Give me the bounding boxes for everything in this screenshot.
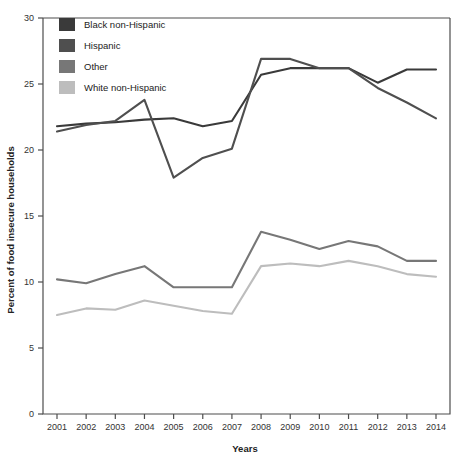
x-tick-label-2014: 2014 — [426, 422, 446, 432]
x-tick-label-2003: 2003 — [105, 422, 125, 432]
line-chart: 051015202530 200120022003200420052006200… — [0, 0, 457, 459]
x-tick-label-2006: 2006 — [193, 422, 213, 432]
legend-label-other: Other — [84, 61, 108, 72]
y-tick-label-5: 5 — [29, 343, 34, 353]
y-tick-label-25: 25 — [24, 79, 34, 89]
x-tick-label-2004: 2004 — [134, 422, 154, 432]
x-tick-label-2005: 2005 — [164, 422, 184, 432]
y-tick-label-20: 20 — [24, 145, 34, 155]
x-tick-label-2010: 2010 — [309, 422, 329, 432]
y-tick-label-0: 0 — [29, 409, 34, 419]
legend-swatch-black-non-hispanic — [59, 18, 75, 31]
x-tick-label-2002: 2002 — [76, 422, 96, 432]
chart-container: 051015202530 200120022003200420052006200… — [0, 0, 457, 459]
x-tick-label-2012: 2012 — [368, 422, 388, 432]
legend-label-hispanic: Hispanic — [84, 40, 121, 51]
legend-swatch-hispanic — [59, 39, 75, 52]
x-axis-title: Years — [232, 443, 257, 454]
x-tick-label-2001: 2001 — [47, 422, 67, 432]
x-tick-label-2008: 2008 — [251, 422, 271, 432]
y-axis-title: Percent of food insecure households — [5, 146, 16, 313]
y-tick-label-30: 30 — [24, 13, 34, 23]
legend-label-black-non-hispanic: Black non-Hispanic — [84, 19, 166, 30]
legend-swatch-other — [59, 60, 75, 73]
legend-label-white-non-hispanic: White non-Hispanic — [84, 82, 167, 93]
x-tick-label-2009: 2009 — [280, 422, 300, 432]
legend-swatch-white-non-hispanic — [59, 81, 75, 94]
y-tick-label-15: 15 — [24, 211, 34, 221]
y-tick-label-10: 10 — [24, 277, 34, 287]
x-tick-label-2011: 2011 — [339, 422, 358, 432]
x-tick-label-2013: 2013 — [397, 422, 417, 432]
x-tick-label-2007: 2007 — [222, 422, 242, 432]
